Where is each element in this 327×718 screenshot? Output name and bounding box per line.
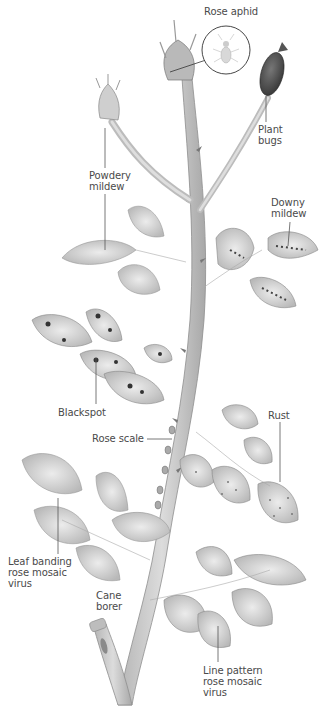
rose-aphid-bud: [160, 20, 206, 80]
rose-plant-drawing: [0, 0, 327, 718]
label-powdery-mildew: Powdery mildew: [89, 170, 131, 192]
label-leaf-banding-rose-mosaic-virus: Leaf banding rose mosaic virus: [8, 556, 72, 589]
label-plant-bugs: Plant bugs: [258, 124, 283, 146]
plant-bugs-bud: [256, 42, 289, 98]
downy-mildew-leaves: [200, 228, 318, 307]
label-cane-borer: Cane borer: [96, 590, 122, 612]
label-rose-scale: Rose scale: [92, 433, 144, 444]
label-blackspot: Blackspot: [58, 407, 106, 418]
label-rust: Rust: [268, 410, 290, 421]
blackspot-leaves: [32, 309, 172, 404]
line-pattern-leaves: [150, 547, 306, 648]
label-downy-mildew: Downy mildew: [271, 197, 306, 219]
powdery-mildew-bud: [96, 74, 120, 120]
rose-disease-illustration: Rose aphid Plant bugs Powdery mildew Dow…: [0, 0, 327, 718]
label-line-pattern-rose-mosaic-virus: Line pattern rose mosaic virus: [203, 665, 263, 698]
label-rose-aphid: Rose aphid: [204, 6, 258, 17]
aphid-magnifier: [202, 26, 250, 74]
powdery-mildew-leaves: [62, 206, 186, 294]
